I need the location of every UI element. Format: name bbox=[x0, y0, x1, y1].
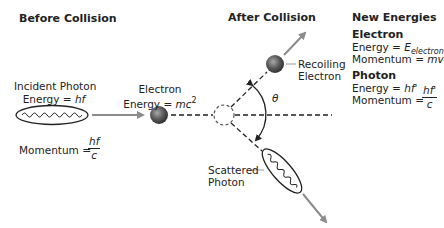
fraction-numerator: hf bbox=[88, 135, 100, 149]
recoiling-electron-icon bbox=[266, 55, 284, 73]
new-photon-momentum-fraction: hf' c bbox=[422, 84, 437, 111]
angle-theta-label: θ bbox=[272, 92, 278, 104]
fraction-denominator: c bbox=[88, 149, 100, 162]
momentum-prefix: Momentum = bbox=[352, 53, 427, 65]
new-photon-momentum-label: Momentum = bbox=[352, 94, 424, 106]
energy-prefix: Energy = bbox=[352, 41, 404, 53]
fraction-numerator: hf' bbox=[422, 84, 437, 98]
collision-point-icon bbox=[214, 105, 234, 125]
fraction-denominator: c bbox=[422, 98, 437, 111]
electron-path-dashed-line bbox=[231, 72, 267, 107]
angle-arc bbox=[252, 85, 266, 140]
scattered-arrow bbox=[303, 194, 326, 222]
scattered-label-line1: Scattered bbox=[208, 164, 259, 176]
after-collision-heading: After Collision bbox=[228, 12, 316, 24]
before-collision-heading: Before Collision bbox=[19, 13, 117, 25]
incident-photon-energy: Energy = hf bbox=[14, 93, 94, 105]
scattered-photon-icon bbox=[256, 144, 307, 199]
new-photon-heading: Photon bbox=[352, 70, 396, 82]
momentum-value: mv bbox=[427, 53, 443, 65]
energy-prefix: Energy = bbox=[123, 98, 175, 110]
incident-photon-icon bbox=[16, 106, 88, 125]
recoiling-label-line2: Electron bbox=[298, 70, 341, 82]
new-photon-energy: Energy = hf' bbox=[352, 82, 417, 94]
electron-energy: Energy = mc2 bbox=[118, 95, 202, 110]
photon-path-dashed-line bbox=[231, 123, 262, 151]
new-electron-momentum: Momentum = mv bbox=[352, 53, 444, 65]
incident-momentum-fraction: hf c bbox=[88, 135, 100, 162]
electron-label: Electron bbox=[124, 83, 196, 95]
new-electron-heading: Electron bbox=[352, 29, 403, 41]
energy-value: hf' bbox=[404, 82, 417, 94]
recoil-arrow bbox=[284, 33, 305, 55]
scattered-label-line2: Photon bbox=[208, 176, 245, 188]
energy-value: mc bbox=[176, 98, 192, 110]
energy-exponent: 2 bbox=[192, 96, 197, 105]
energy-prefix: Energy = bbox=[352, 82, 404, 94]
energy-value: hf bbox=[75, 93, 85, 105]
energy-symbol: E bbox=[404, 41, 411, 53]
new-energies-heading: New Energies bbox=[352, 12, 437, 24]
incident-photon-label: Incident Photon bbox=[14, 80, 94, 92]
recoiling-label-line1: Recoiling bbox=[298, 58, 346, 70]
incident-momentum-label: Momentum = bbox=[19, 144, 91, 156]
energy-prefix: Energy = bbox=[23, 93, 75, 105]
